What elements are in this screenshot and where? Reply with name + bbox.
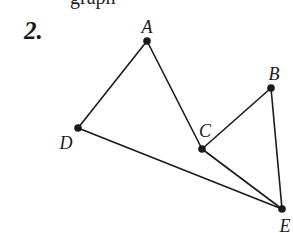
point-E xyxy=(278,205,286,213)
point-A xyxy=(143,37,151,45)
label-A: A xyxy=(141,17,154,37)
label-D: D xyxy=(59,133,73,153)
label-E: E xyxy=(279,216,291,233)
segment-AD xyxy=(78,41,147,128)
geometry-diagram: ABCDE xyxy=(0,0,293,233)
segment-BE xyxy=(271,88,282,209)
label-B: B xyxy=(269,64,280,84)
segment-DE xyxy=(78,128,282,209)
segments xyxy=(78,41,282,209)
segment-CE xyxy=(202,149,282,209)
segment-CB xyxy=(202,88,271,149)
point-C xyxy=(198,145,206,153)
point-B xyxy=(267,84,275,92)
segment-AC xyxy=(147,41,202,149)
point-D xyxy=(74,124,82,132)
point-labels: ABCDE xyxy=(59,17,291,233)
label-C: C xyxy=(199,121,212,141)
points xyxy=(74,37,286,213)
